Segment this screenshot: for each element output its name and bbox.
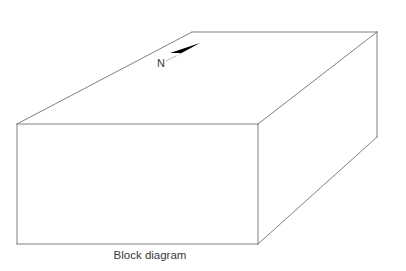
figure-caption: Block diagram: [114, 249, 187, 261]
block-diagram-figure: N Block diagram: [0, 0, 406, 271]
diagram-canvas: N Block diagram: [0, 0, 406, 271]
block-front-face: [17, 124, 258, 244]
north-label: N: [157, 57, 165, 69]
